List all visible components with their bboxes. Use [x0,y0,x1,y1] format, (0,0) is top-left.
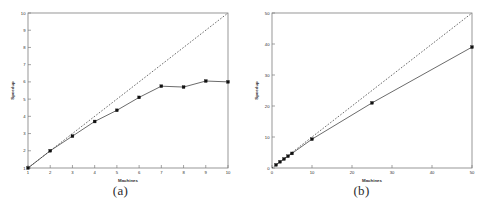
y-tick-label: 0 [267,166,270,171]
x-tick-label: 0 [271,170,274,175]
series-line-ideal [272,13,472,168]
y-tick-label: 8 [23,45,26,50]
x-tick-label: 7 [160,170,163,175]
y-tick-label: 1 [23,166,26,171]
data-point [204,80,207,83]
y-tick-label: 50 [265,11,270,16]
panel-b: 0102030405001020304050MachinesSpeedup (b… [241,0,482,215]
x-tick-label: 50 [470,170,475,175]
data-point [275,163,278,166]
data-point [71,135,74,138]
y-tick-label: 30 [265,73,270,78]
y-axis-title: Speedup [10,81,15,100]
speedup-chart-a: 1234567891012345678910MachinesSpeedup [0,0,241,185]
series-line-measured [276,47,472,165]
data-point [291,152,294,155]
series-line-measured [28,81,228,168]
x-tick-label: 6 [138,170,141,175]
y-axis-title: Speedup [254,81,259,100]
x-tick-label: 10 [310,170,315,175]
speedup-chart-b: 0102030405001020304050MachinesSpeedup [241,0,482,185]
y-tick-label: 3 [23,131,26,136]
x-tick-label: 2 [49,170,52,175]
panel-b-caption: (b) [241,183,482,199]
y-tick-label: 9 [23,28,26,33]
panel-a-caption: (a) [0,183,241,199]
data-point [287,155,290,158]
y-tick-label: 10 [265,135,270,140]
x-tick-label: 5 [116,170,119,175]
x-tick-label: 1 [27,170,30,175]
x-tick-label: 4 [93,170,96,175]
x-tick-label: 30 [390,170,395,175]
y-tick-label: 7 [23,62,26,67]
y-tick-label: 2 [23,148,26,153]
y-tick-label: 4 [23,114,26,119]
data-point [160,85,163,88]
data-point [471,46,474,49]
data-point [93,120,96,123]
data-point [49,149,52,152]
x-tick-label: 3 [71,170,74,175]
y-tick-label: 5 [23,97,26,102]
y-tick-label: 6 [23,79,26,84]
y-tick-label: 10 [21,11,26,16]
data-point [138,96,141,99]
data-point [279,160,282,163]
y-tick-label: 20 [265,104,270,109]
data-point [283,158,286,161]
x-tick-label: 10 [226,170,231,175]
panel-a: 1234567891012345678910MachinesSpeedup (a… [0,0,241,215]
x-tick-label: 9 [205,170,208,175]
x-tick-label: 8 [182,170,185,175]
x-tick-label: 40 [430,170,435,175]
data-point [182,86,185,89]
y-tick-label: 40 [265,42,270,47]
data-point [27,167,30,170]
data-point [227,80,230,83]
series-line-ideal [28,13,228,168]
data-point [115,109,118,112]
data-point [311,138,314,141]
data-point [371,101,374,104]
x-tick-label: 20 [350,170,355,175]
figure-row: 1234567891012345678910MachinesSpeedup (a… [0,0,482,215]
